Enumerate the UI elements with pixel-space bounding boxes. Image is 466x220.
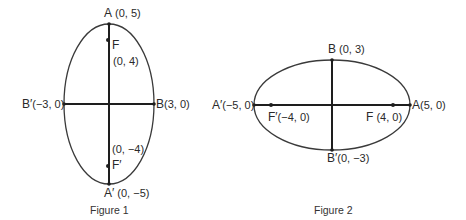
figure1-caption: Figure 1 <box>90 204 129 216</box>
figure2-point-B <box>330 58 334 62</box>
figure1-label-F-prime: F′ <box>112 159 122 171</box>
figure1-label-F: F <box>112 39 119 51</box>
figure1-focus-F <box>106 38 110 42</box>
figure1-label-A: A (0, 5) <box>104 7 141 19</box>
label-name: F <box>366 110 373 124</box>
label-name: A <box>104 6 112 20</box>
figure1-focus-F-prime <box>106 164 110 168</box>
figure2-caption: Figure 2 <box>314 204 353 216</box>
label-name: A <box>412 98 420 112</box>
label-name: B′ <box>327 151 337 165</box>
label-coords: (0, 3) <box>339 43 365 55</box>
label-name: A′ <box>212 98 222 112</box>
figure1-label-F-coords: (0, 4) <box>113 55 139 67</box>
label-coords: (0, 5) <box>115 7 141 19</box>
figure1-label-A-prime: A′ (0, −5) <box>104 187 149 199</box>
figure2-label-B-prime: B′(0, −3) <box>327 152 369 164</box>
figure2-focus-F <box>391 103 395 107</box>
label-coords: (−5, 0) <box>222 99 254 111</box>
label-name: B <box>328 42 336 56</box>
figure1-label-B-prime: B′(−3, 0) <box>22 98 64 110</box>
label-name: B′ <box>22 97 32 111</box>
label-coords: (5, 0) <box>420 99 446 111</box>
figure2-label-A-prime: A′(−5, 0) <box>212 99 254 111</box>
label-coords: (−3, 0) <box>32 98 64 110</box>
figure2-label-F: F (4, 0) <box>366 111 402 123</box>
label-name: B <box>156 97 164 111</box>
figure2-focus-F-prime <box>269 103 273 107</box>
figure2-graphic <box>252 58 412 152</box>
figure1-label-F-prime-coords: (0, −4) <box>112 143 144 155</box>
label-coords: (3, 0) <box>164 98 190 110</box>
label-coords: (−4, 0) <box>278 111 310 123</box>
label-name: F′ <box>268 110 278 124</box>
label-coords: (0, −3) <box>337 152 369 164</box>
figure2-label-F-prime: F′(−4, 0) <box>268 111 310 123</box>
figure1-graphic <box>62 22 156 186</box>
label-coords: (0, −5) <box>117 187 149 199</box>
label-name: A′ <box>104 186 114 200</box>
figure1-point-A <box>107 22 111 26</box>
figure2-label-B: B (0, 3) <box>328 43 365 55</box>
label-coords: (4, 0) <box>376 111 402 123</box>
figure1-label-B: B(3, 0) <box>156 98 190 110</box>
figure2-label-A: A(5, 0) <box>412 99 446 111</box>
